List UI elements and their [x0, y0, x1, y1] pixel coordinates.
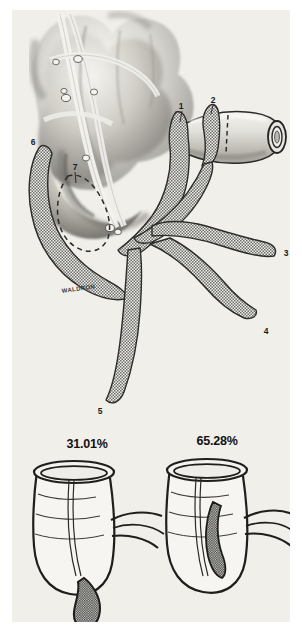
callout-7: 7	[73, 162, 78, 172]
left-percent-label: 31.01%	[66, 437, 107, 451]
callout-2: 2	[211, 95, 216, 105]
callout-4: 4	[264, 326, 269, 336]
anatomical-figure: 1 2 3 4 5 6 7 WALDRON 31.01% 65.28%	[0, 0, 302, 639]
callout-1: 1	[179, 101, 184, 111]
right-percent-label: 65.28%	[196, 434, 237, 448]
illustration-plate: 1 2 3 4 5 6 7 WALDRON 31.01% 65.28%	[0, 0, 302, 639]
callout-6: 6	[31, 137, 36, 147]
callout-3: 3	[284, 248, 289, 258]
callout-5: 5	[98, 406, 103, 416]
